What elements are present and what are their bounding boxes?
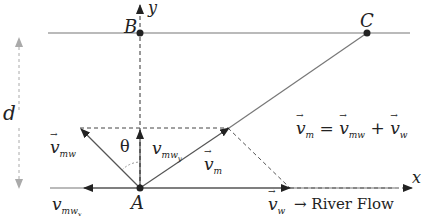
y-axis-label: y bbox=[148, 0, 157, 16]
river-flow-label: → River Flow bbox=[294, 197, 394, 212]
v-m-label: vm bbox=[204, 156, 222, 176]
v-mw-label: vmw bbox=[50, 139, 76, 159]
point-b bbox=[137, 30, 144, 37]
point-a bbox=[137, 185, 144, 192]
river-crossing-diagram: B y C A x d θ vmw vmwy vmwx vm vw → Rive… bbox=[0, 0, 425, 216]
v-mw-arrow bbox=[81, 129, 140, 188]
v-mw-x-label: vmwx bbox=[52, 196, 82, 216]
v-w-label: vw bbox=[268, 196, 285, 216]
velocity-equation: vm = vmw + vw bbox=[296, 120, 407, 140]
helper-diagonal bbox=[228, 128, 290, 188]
theta-arc bbox=[122, 162, 140, 170]
point-b-label: B bbox=[124, 18, 137, 36]
v-mw-y-label: vmwy bbox=[152, 140, 182, 163]
theta-label: θ bbox=[120, 139, 130, 155]
point-a-label: A bbox=[131, 194, 144, 212]
diagram-lines bbox=[0, 0, 425, 216]
x-axis-label: x bbox=[412, 170, 421, 186]
point-c-label: C bbox=[360, 12, 374, 30]
distance-label: d bbox=[3, 103, 16, 123]
